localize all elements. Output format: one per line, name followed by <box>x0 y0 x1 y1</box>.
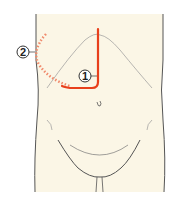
svg-text:1: 1 <box>82 70 88 82</box>
svg-text:2: 2 <box>20 46 26 58</box>
abdomen-diagram: 1 2 <box>0 0 177 209</box>
diagram-canvas: 1 2 <box>0 0 177 209</box>
torso-skin <box>35 14 165 192</box>
label-2-marker: 2 <box>17 46 35 58</box>
